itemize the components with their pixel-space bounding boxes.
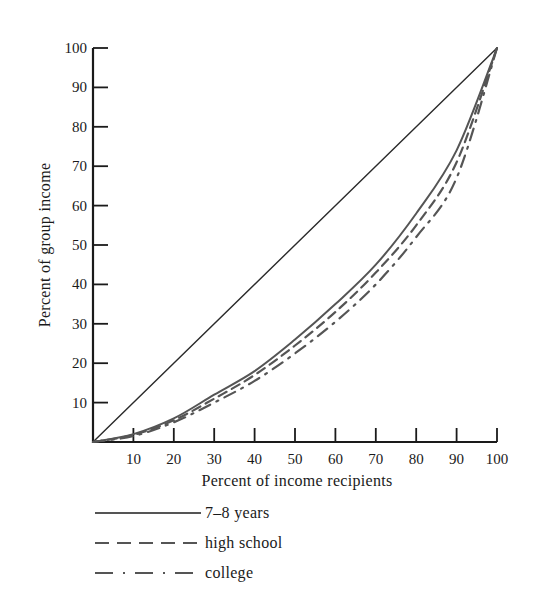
series-line-of-equality [93,48,497,442]
y-tick-label: 100 [65,40,88,56]
x-tick-label: 90 [449,451,464,467]
legend-label: high school [205,534,283,552]
data-series [93,48,497,442]
y-tick-label: 90 [72,79,87,95]
x-axis-label: Percent of income recipients [202,472,393,490]
y-tick-label: 30 [72,316,87,332]
legend-label: college [205,564,253,582]
y-tick-label: 80 [72,119,87,135]
legend-label: 7–8 years [205,504,269,522]
x-tick-label: 50 [288,451,303,467]
y-tick-label: 10 [72,395,87,411]
y-tick-label: 20 [72,355,87,371]
x-tick-label: 20 [166,451,181,467]
y-tick-label: 50 [72,237,87,253]
legend: 7–8 years high school college [95,498,283,588]
dashed-line-swatch-icon [95,538,201,548]
lorenz-chart: 1020304050607080901001020304050607080901… [0,0,538,500]
x-tick-label: 80 [409,451,424,467]
x-tick-label: 60 [328,451,343,467]
x-tick-label: 30 [207,451,222,467]
x-tick-label: 100 [486,451,509,467]
dash-dot-line-swatch-icon [95,568,201,578]
solid-line-swatch-icon [95,508,201,518]
legend-item-high-school: high school [95,528,283,558]
y-tick-label: 60 [72,198,87,214]
y-tick-label: 70 [72,158,87,174]
y-tick-label: 40 [72,276,87,292]
y-axis-label: Percent of group income [36,163,54,328]
legend-item-7-8-years: 7–8 years [95,498,283,528]
x-tick-label: 10 [126,451,141,467]
x-tick-label: 70 [368,451,383,467]
x-tick-label: 40 [247,451,262,467]
legend-item-college: college [95,558,283,588]
